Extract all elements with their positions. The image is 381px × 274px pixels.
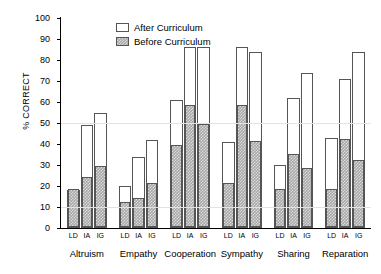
bar-reparation-ld — [325, 138, 338, 228]
y-tick-20: 20 — [28, 182, 50, 191]
bar-empathy-ig — [146, 140, 159, 228]
bar-cooperation-ld — [170, 100, 183, 228]
sub-label-ig: IG — [194, 232, 214, 239]
bar-sympathy-ld — [222, 142, 235, 228]
chart-legend: After Curriculum Before Curriculum — [116, 22, 211, 50]
gridline-50 — [61, 123, 371, 124]
legend-swatch-after-icon — [116, 23, 129, 32]
bar-before-segment — [302, 168, 313, 227]
bar-before-segment — [250, 141, 261, 227]
y-axis-tick-labels: 0102030405060708090100 — [26, 0, 50, 274]
bar-reparation-ig — [352, 52, 365, 228]
bar-before-segment — [82, 177, 93, 227]
sub-label-ig: IG — [142, 232, 162, 239]
bar-altruism-ld — [67, 190, 80, 228]
y-tick-30: 30 — [28, 161, 50, 170]
y-tick-40: 40 — [28, 140, 50, 149]
y-tick-90: 90 — [28, 35, 50, 44]
bar-before-segment — [340, 139, 351, 227]
sub-label-ig: IG — [90, 232, 110, 239]
bar-sharing-ia — [287, 98, 300, 228]
bar-reparation-ia — [339, 79, 352, 228]
bar-before-segment — [353, 160, 364, 227]
y-tick-10: 10 — [28, 203, 50, 212]
sub-label-ig: IG — [297, 232, 317, 239]
y-tickmark-90 — [57, 39, 61, 40]
bar-before-segment — [147, 183, 158, 227]
sub-label-ig: IG — [245, 232, 265, 239]
y-tickmark-60 — [57, 102, 61, 103]
bar-before-segment — [120, 202, 131, 227]
sub-label-ig: IG — [349, 232, 369, 239]
legend-item-before: Before Curriculum — [116, 36, 211, 47]
y-tickmark-100 — [57, 18, 61, 19]
bar-cooperation-ia — [184, 47, 197, 228]
bar-before-segment — [223, 183, 234, 227]
bar-sharing-ld — [274, 165, 287, 228]
bar-before-segment — [171, 145, 182, 227]
y-tickmark-70 — [57, 81, 61, 82]
y-tick-100: 100 — [28, 14, 50, 23]
bar-altruism-ia — [81, 125, 94, 228]
bar-before-segment — [326, 189, 337, 227]
y-tick-0: 0 — [28, 224, 50, 233]
y-tickmark-40 — [57, 144, 61, 145]
legend-label-after: After Curriculum — [134, 22, 203, 33]
bar-empathy-ia — [132, 157, 145, 228]
bar-altruism-ig — [94, 113, 107, 229]
bar-before-segment — [133, 198, 144, 227]
y-tick-70: 70 — [28, 77, 50, 86]
y-tickmark-0 — [57, 228, 61, 229]
bar-chart: % CORRECT 0102030405060708090100 LDIAIGL… — [0, 0, 381, 274]
gridline-10 — [61, 207, 371, 208]
y-tickmark-80 — [57, 60, 61, 61]
bar-before-segment — [68, 189, 79, 227]
y-tickmark-30 — [57, 165, 61, 166]
y-tick-50: 50 — [28, 119, 50, 128]
legend-swatch-before-icon — [116, 37, 129, 46]
y-tick-80: 80 — [28, 56, 50, 65]
bar-sympathy-ig — [249, 52, 262, 228]
y-tick-60: 60 — [28, 98, 50, 107]
group-label-reparation: Reparation — [310, 248, 380, 259]
bar-before-segment — [275, 189, 286, 227]
bar-sympathy-ia — [236, 47, 249, 228]
legend-item-after: After Curriculum — [116, 22, 211, 33]
y-tickmark-20 — [57, 186, 61, 187]
bar-before-segment — [198, 124, 209, 227]
bar-cooperation-ig — [197, 47, 210, 228]
bar-sharing-ig — [301, 73, 314, 228]
legend-label-before: Before Curriculum — [134, 36, 211, 47]
x-axis-line — [60, 228, 371, 229]
bar-before-segment — [288, 154, 299, 228]
bar-before-segment — [95, 166, 106, 227]
